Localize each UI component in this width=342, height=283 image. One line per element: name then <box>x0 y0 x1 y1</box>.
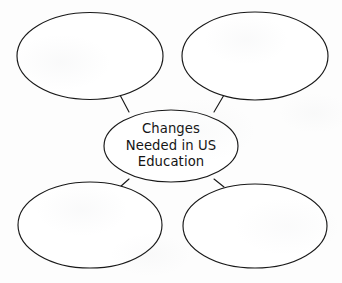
connector-center-to-bottom-right <box>214 179 224 187</box>
top-right-blank-ellipse[interactable] <box>182 12 328 100</box>
concept-web-canvas <box>0 0 342 283</box>
center-topic-ellipse[interactable] <box>104 110 238 182</box>
bottom-right-blank-ellipse[interactable] <box>183 184 327 268</box>
connector-center-to-top-right <box>214 95 224 112</box>
bottom-left-blank-ellipse[interactable] <box>18 182 162 268</box>
connector-center-to-top-left <box>120 95 129 112</box>
concept-web-diagram: Changes Needed in US Education <box>0 0 342 283</box>
top-left-blank-ellipse[interactable] <box>17 13 163 100</box>
